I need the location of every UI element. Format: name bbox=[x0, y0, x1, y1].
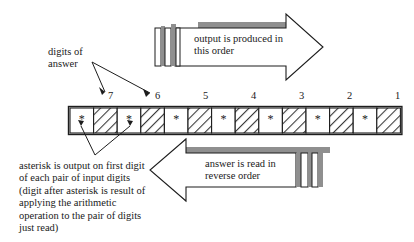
asterisk-explanation-note: asterisk is output on first digit of eac… bbox=[19, 160, 145, 234]
tape-number-4: 4 bbox=[251, 90, 256, 101]
tape-cell-digit bbox=[188, 108, 212, 133]
reverse-arrow-tail-stripes bbox=[296, 148, 323, 187]
reverse-order-label: answer is read in reverse order bbox=[205, 158, 276, 183]
tape-cell-digit bbox=[94, 108, 118, 133]
diagram-canvas: ******* digits of answer output is produ… bbox=[0, 0, 414, 242]
output-order-label: output is produced in this order bbox=[194, 33, 283, 58]
tape-cell-digit bbox=[377, 108, 401, 133]
tape-number-1: 1 bbox=[395, 90, 400, 101]
tape-number-5: 5 bbox=[203, 90, 208, 101]
tape-number-7: 7 bbox=[108, 90, 113, 101]
tape-cell-digit bbox=[141, 108, 165, 133]
asterisk-glyph: * bbox=[362, 112, 368, 126]
asterisk-glyph: * bbox=[220, 112, 226, 126]
asterisk-glyph: * bbox=[268, 112, 274, 126]
asterisk-glyph: * bbox=[173, 112, 179, 126]
tape-strip: ******* bbox=[69, 107, 402, 135]
output-arrow-tail-stripes bbox=[155, 24, 180, 66]
digits-of-answer-label: digits of answer bbox=[48, 46, 83, 71]
asterisk-glyph: * bbox=[315, 112, 321, 126]
tape-cell-digit bbox=[330, 108, 354, 133]
tape-cell-digit bbox=[235, 108, 259, 133]
tape-number-3: 3 bbox=[299, 90, 304, 101]
tape-number-6: 6 bbox=[155, 90, 160, 101]
tape-number-2: 2 bbox=[347, 90, 352, 101]
tape-cell-digit bbox=[282, 108, 306, 133]
